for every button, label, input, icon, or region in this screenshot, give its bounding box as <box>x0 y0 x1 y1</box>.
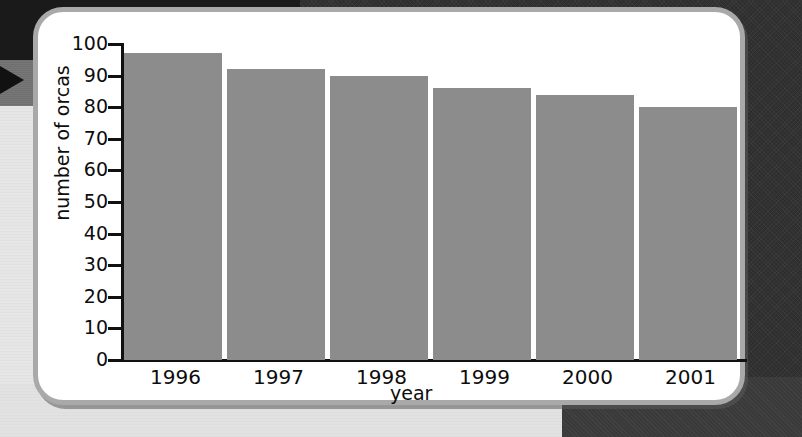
plot-area: 1009080706050403020100 number of orcas 1… <box>38 12 740 400</box>
y-axis-title: number of orcas <box>51 48 73 238</box>
bar <box>330 76 428 360</box>
x-axis-tick-label: 1997 <box>227 367 330 387</box>
y-axis-tick <box>108 138 122 141</box>
x-axis-tick-label: 2001 <box>639 367 742 387</box>
x-axis-tick-label: 1999 <box>433 367 536 387</box>
bar <box>639 107 737 360</box>
y-axis-tick-label: 20 <box>62 287 108 306</box>
y-axis-tick-label: 30 <box>62 255 108 274</box>
chart-page: 1009080706050403020100 number of orcas 1… <box>0 0 802 437</box>
y-axis-tick <box>108 169 122 172</box>
y-axis-tick <box>108 327 122 330</box>
x-axis-tick-label: 1996 <box>124 367 227 387</box>
y-axis-tick <box>108 201 122 204</box>
bar <box>124 53 222 360</box>
bar <box>433 88 531 360</box>
bars-group <box>124 12 744 360</box>
y-axis-tick-label: 10 <box>62 318 108 337</box>
left-arrow-icon <box>0 66 24 94</box>
y-axis-tick <box>108 43 122 46</box>
y-axis-tick <box>108 359 122 362</box>
y-axis-tick <box>108 233 122 236</box>
y-axis-tick <box>108 106 122 109</box>
x-axis-tick-label: 2000 <box>536 367 639 387</box>
y-axis-tick <box>108 264 122 267</box>
y-axis-tick <box>108 296 122 299</box>
bar <box>536 95 634 360</box>
chart-card: 1009080706050403020100 number of orcas 1… <box>33 7 745 405</box>
x-axis-title: year <box>390 384 432 403</box>
bar <box>227 69 325 360</box>
y-axis-tick-label: 0 <box>62 350 108 369</box>
y-axis-tick <box>108 75 122 78</box>
